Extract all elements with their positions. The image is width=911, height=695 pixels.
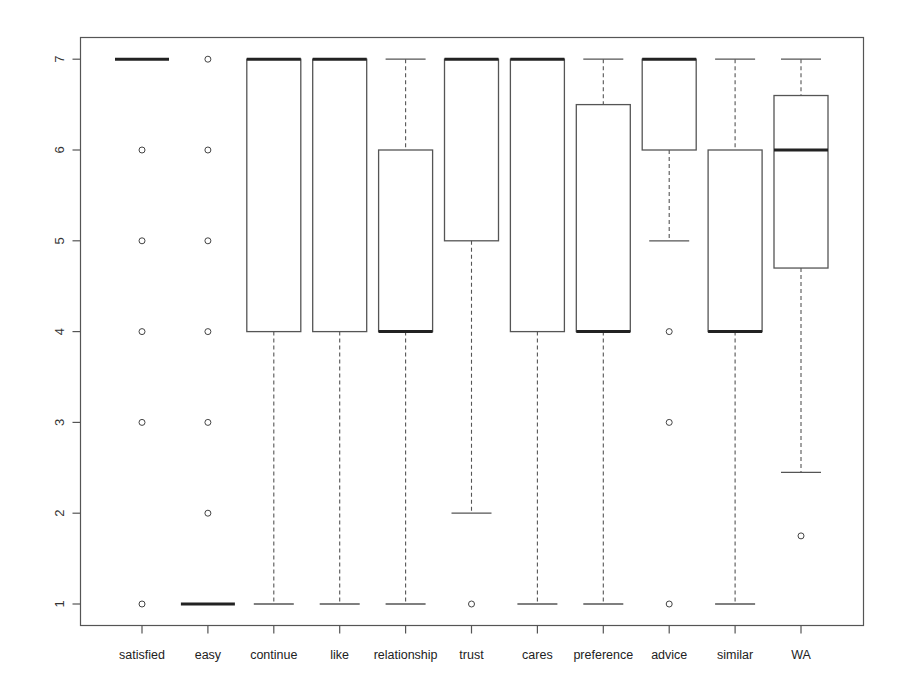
outlier-point [205, 329, 211, 335]
iqr-box [379, 150, 433, 332]
outlier-point [205, 56, 211, 62]
x-tick-label-similar: similar [717, 648, 753, 662]
outlier-point [469, 601, 475, 607]
y-tick-label: 4 [52, 328, 67, 335]
y-tick-label: 3 [52, 419, 67, 426]
iqr-box [708, 150, 762, 332]
x-tick-label-preference: preference [573, 648, 633, 662]
box-like [313, 59, 367, 604]
outlier-point [205, 147, 211, 153]
box-similar [708, 59, 762, 604]
box-trust [445, 59, 499, 607]
outlier-point [666, 601, 672, 607]
outlier-point [205, 510, 211, 516]
x-tick-label-satisfied: satisfied [119, 648, 165, 662]
box-cares [510, 59, 564, 604]
iqr-box [247, 59, 301, 331]
x-tick-label-relationship: relationship [374, 648, 438, 662]
outlier-point [205, 419, 211, 425]
box-wa [774, 59, 828, 539]
x-tick-label-continue: continue [250, 648, 297, 662]
iqr-box [510, 59, 564, 331]
y-tick-label: 6 [52, 146, 67, 153]
iqr-box [642, 59, 696, 150]
iqr-box [313, 59, 367, 331]
x-tick-label-wa: WA [791, 648, 811, 662]
y-axis: 1234567 [52, 56, 81, 608]
outlier-point [139, 419, 145, 425]
outlier-point [205, 238, 211, 244]
box-continue [247, 59, 301, 604]
box-satisfied [115, 59, 169, 607]
y-tick-label: 7 [52, 56, 67, 63]
outlier-point [139, 238, 145, 244]
outlier-point [666, 329, 672, 335]
box-preference [576, 59, 630, 604]
outlier-point [798, 533, 804, 539]
x-tick-label-cares: cares [522, 648, 553, 662]
y-tick-label: 1 [52, 600, 67, 607]
boxes [115, 56, 828, 607]
box-easy [181, 56, 235, 604]
x-tick-label-advice: advice [651, 648, 687, 662]
x-tick-label-like: like [330, 648, 349, 662]
x-tick-label-trust: trust [459, 648, 484, 662]
iqr-box [774, 96, 828, 269]
outlier-point [666, 419, 672, 425]
iqr-box [576, 105, 630, 332]
boxplot-chart: 1234567 satisfiedeasycontinuelikerelatio… [0, 0, 911, 695]
outlier-point [139, 601, 145, 607]
iqr-box [445, 59, 499, 241]
outlier-point [139, 147, 145, 153]
y-tick-label: 5 [52, 237, 67, 244]
x-axis: satisfiedeasycontinuelikerelationshiptru… [119, 626, 811, 662]
box-advice [642, 59, 696, 607]
y-tick-label: 2 [52, 510, 67, 517]
box-relationship [379, 59, 433, 604]
outlier-point [139, 329, 145, 335]
x-tick-label-easy: easy [195, 648, 222, 662]
